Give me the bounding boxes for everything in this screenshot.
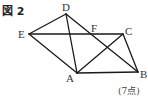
segment-DA [66, 14, 77, 73]
point-label-D: D [62, 1, 70, 13]
segment-ED [29, 14, 66, 34]
score-label: (7点) [118, 84, 140, 97]
point-label-A: A [66, 72, 74, 84]
segment-AC [77, 34, 123, 73]
segment-AB [77, 72, 138, 73]
point-label-B: B [140, 68, 147, 80]
point-label-F: F [91, 22, 97, 34]
geometry-diagram: D E F C A B [0, 0, 148, 97]
point-label-E: E [18, 28, 25, 40]
point-label-C: C [125, 25, 132, 37]
segment-EA [29, 34, 77, 73]
